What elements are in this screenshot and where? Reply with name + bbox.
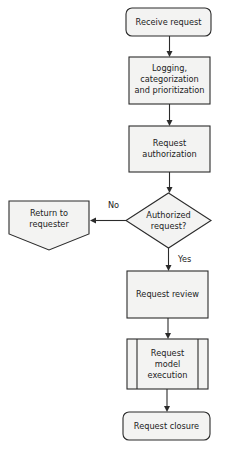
node-closure-label: Request closure xyxy=(134,421,199,431)
flowchart: Receive request Logging, categorization … xyxy=(0,0,228,451)
edge-logging-to-authorization xyxy=(167,104,173,126)
node-review-label: Request review xyxy=(136,289,199,299)
node-logging-categorization-prioritization: Logging, categorization and prioritizati… xyxy=(129,57,210,104)
node-logging-line2: categorization xyxy=(140,74,199,84)
node-logging-line3: and prioritization xyxy=(135,85,205,95)
node-decision-line2: request? xyxy=(151,221,186,231)
node-authorization-line2: authorization xyxy=(142,149,196,159)
node-return-to-requester: Return to requester xyxy=(9,201,89,250)
node-model-line1: Request xyxy=(151,348,185,358)
node-request-review: Request review xyxy=(127,271,208,318)
edge-model-to-closure xyxy=(164,389,170,412)
edge-decision-yes: Yes xyxy=(166,248,192,271)
node-request-model-execution: Request model execution xyxy=(127,339,208,389)
edge-yes-label: Yes xyxy=(177,254,191,264)
node-receive-request-label: Receive request xyxy=(136,17,203,27)
node-receive-request: Receive request xyxy=(126,8,211,36)
node-decision-line1: Authorized xyxy=(146,210,190,220)
node-request-closure: Request closure xyxy=(123,412,210,440)
node-request-authorization: Request authorization xyxy=(129,126,210,172)
node-return-line1: Return to xyxy=(30,208,68,218)
edge-no-label: No xyxy=(108,200,119,210)
node-return-line2: requester xyxy=(29,219,69,229)
node-model-line2: model xyxy=(155,359,181,369)
node-model-line3: execution xyxy=(148,370,188,380)
edge-decision-no: No xyxy=(90,200,126,224)
node-authorization-line1: Request xyxy=(153,138,187,148)
edge-review-to-model-execution xyxy=(165,318,171,339)
node-logging-line1: Logging, xyxy=(152,63,187,73)
edge-receive-to-logging xyxy=(167,36,173,57)
node-authorized-request-decision: Authorized request? xyxy=(126,193,211,248)
edge-authorization-to-decision xyxy=(167,172,173,193)
